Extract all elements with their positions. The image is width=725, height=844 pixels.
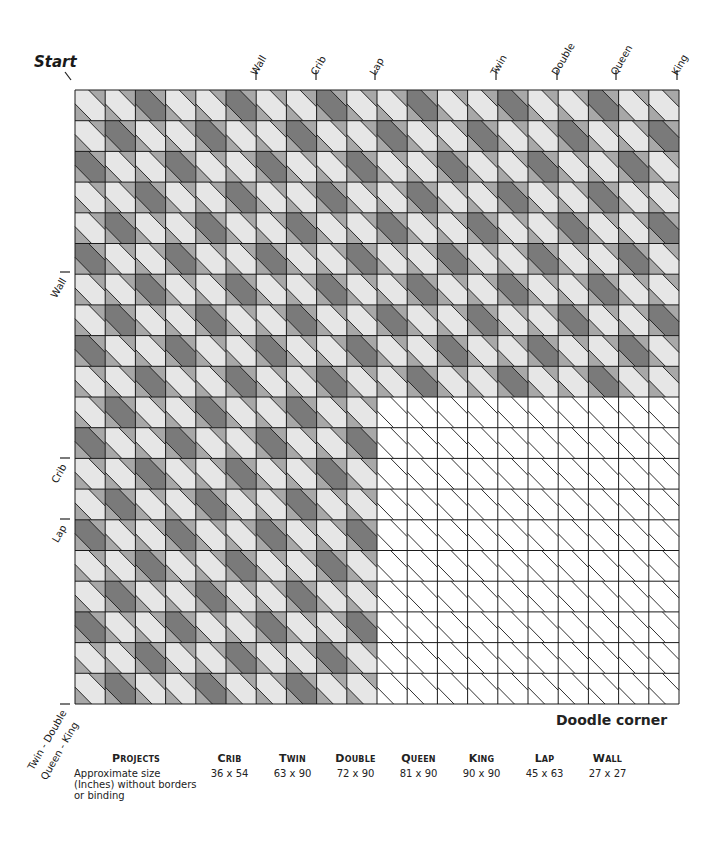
quilt-block <box>256 551 286 582</box>
quilt-block <box>166 397 196 428</box>
quilt-block <box>407 612 437 643</box>
quilt-block <box>317 520 347 551</box>
quilt-block <box>558 336 588 367</box>
quilt-block <box>437 551 467 582</box>
quilt-block <box>588 366 618 397</box>
quilt-block <box>619 90 649 121</box>
quilt-block <box>256 121 286 152</box>
quilt-block <box>528 612 558 643</box>
quilt-block <box>588 305 618 336</box>
quilt-block <box>347 274 377 305</box>
quilt-block <box>256 643 286 674</box>
quilt-block <box>437 397 467 428</box>
quilt-block <box>226 673 256 704</box>
quilt-block <box>75 612 105 643</box>
quilt-block <box>437 673 467 704</box>
quilt-block <box>407 274 437 305</box>
quilt-block <box>407 151 437 182</box>
quilt-block <box>226 489 256 520</box>
quilt-block <box>317 428 347 459</box>
quilt-block <box>226 458 256 489</box>
quilt-block <box>588 274 618 305</box>
quilt-block <box>135 274 165 305</box>
quilt-block <box>226 151 256 182</box>
quilt-block <box>407 520 437 551</box>
quilt-block <box>317 244 347 275</box>
quilt-block <box>317 336 347 367</box>
quilt-block <box>256 612 286 643</box>
quilt-block <box>528 121 558 152</box>
quilt-block <box>528 151 558 182</box>
quilt-block <box>105 643 135 674</box>
quilt-block <box>619 551 649 582</box>
quilt-block <box>286 121 316 152</box>
quilt-block <box>286 274 316 305</box>
quilt-block <box>135 581 165 612</box>
quilt-block <box>75 121 105 152</box>
quilt-block <box>226 643 256 674</box>
quilt-block <box>588 182 618 213</box>
quilt-block <box>528 244 558 275</box>
quilt-block <box>347 612 377 643</box>
quilt-block <box>256 305 286 336</box>
quilt-block <box>135 551 165 582</box>
quilt-block <box>437 612 467 643</box>
quilt-block <box>619 458 649 489</box>
quilt-block <box>619 489 649 520</box>
size-lap: 45 x 63 <box>513 768 576 801</box>
quilt-block <box>75 397 105 428</box>
quilt-block <box>105 244 135 275</box>
size-wall: 27 x 27 <box>576 768 639 801</box>
quilt-block <box>468 274 498 305</box>
quilt-block <box>498 520 528 551</box>
quilt-block <box>75 520 105 551</box>
size-double: 72 x 90 <box>324 768 387 801</box>
quilt-block <box>377 274 407 305</box>
quilt-block <box>286 305 316 336</box>
quilt-block <box>437 151 467 182</box>
quilt-block <box>498 366 528 397</box>
quilt-block <box>105 121 135 152</box>
size-twin: 63 x 90 <box>261 768 324 801</box>
column-wall: Wall <box>576 752 639 768</box>
quilt-block <box>75 213 105 244</box>
quilt-block <box>196 274 226 305</box>
quilt-block <box>75 489 105 520</box>
quilt-block <box>166 428 196 459</box>
quilt-block <box>437 489 467 520</box>
quilt-block <box>498 489 528 520</box>
quilt-block <box>286 520 316 551</box>
quilt-block <box>347 551 377 582</box>
quilt-block <box>347 121 377 152</box>
quilt-block <box>226 182 256 213</box>
start-label: Start <box>34 53 77 71</box>
doodle-corner-label: Doodle corner <box>556 712 667 728</box>
quilt-block <box>135 612 165 643</box>
quilt-block <box>377 458 407 489</box>
quilt-block <box>105 428 135 459</box>
quilt-block <box>649 366 679 397</box>
quilt-block <box>105 151 135 182</box>
quilt-block <box>619 520 649 551</box>
quilt-block <box>377 182 407 213</box>
quilt-block <box>468 121 498 152</box>
quilt-block <box>498 274 528 305</box>
quilt-block <box>166 244 196 275</box>
quilt-block <box>105 673 135 704</box>
quilt-block <box>105 336 135 367</box>
quilt-block <box>468 397 498 428</box>
quilt-block <box>528 581 558 612</box>
quilt-block <box>619 336 649 367</box>
quilt-block <box>135 90 165 121</box>
quilt-block <box>528 673 558 704</box>
quilt-block <box>347 90 377 121</box>
quilt-block <box>75 305 105 336</box>
quilt-block <box>347 366 377 397</box>
quilt-block <box>528 366 558 397</box>
quilt-block <box>528 397 558 428</box>
quilt-block <box>558 213 588 244</box>
quilt-block <box>196 520 226 551</box>
quilt-block <box>528 458 558 489</box>
quilt-block <box>105 397 135 428</box>
quilt-block <box>286 336 316 367</box>
